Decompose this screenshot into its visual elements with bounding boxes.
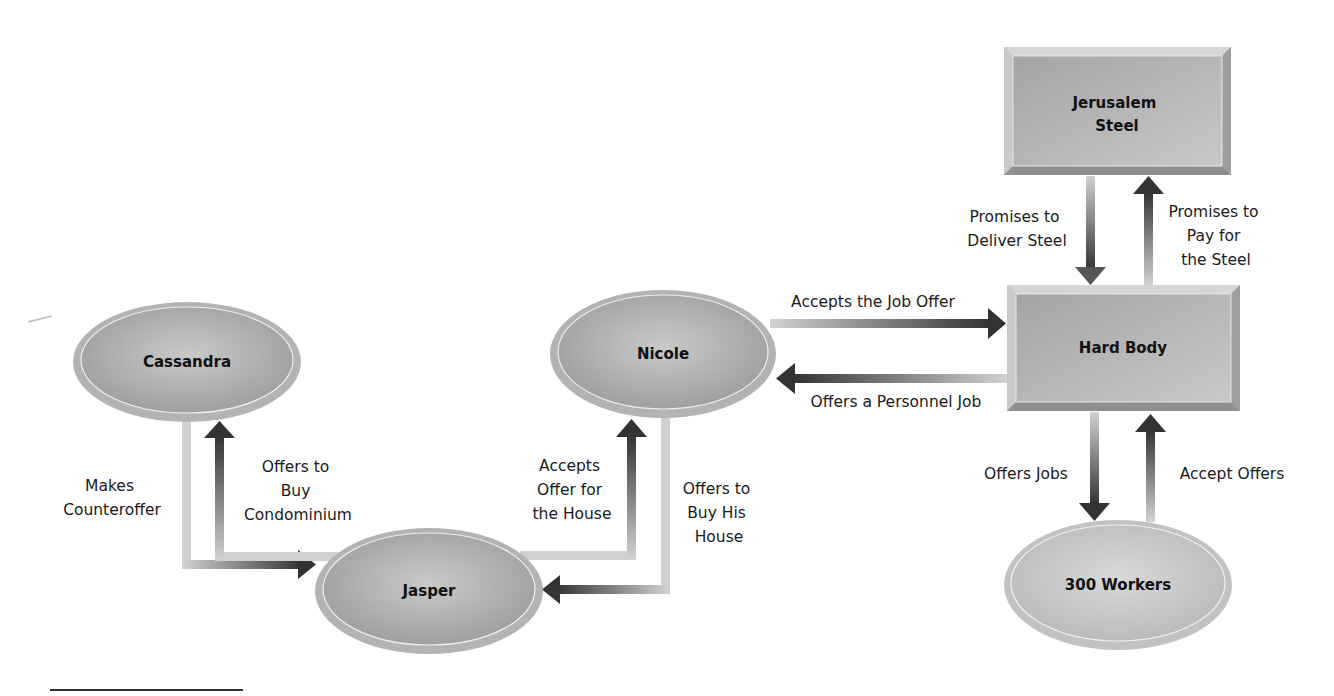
- edge-label-offers-jobs: Offers Jobs: [984, 465, 1068, 483]
- node-300-workers: 300 Workers: [1004, 520, 1232, 650]
- node-label-hard-body: Hard Body: [1079, 339, 1168, 357]
- edge-label-accept-offers: Accept Offers: [1180, 465, 1285, 483]
- contract-network-diagram: Cassandra Jasper Nicole Hard Body Jerusa…: [0, 0, 1334, 696]
- edge-offers-jobs: [1079, 412, 1110, 521]
- edge-promises-to-deliver-steel: [1075, 176, 1106, 285]
- edge-promises-to-pay-for-steel: [1133, 176, 1164, 285]
- edge-label-accepts-offer-for-house: Accepts Offer for the House: [533, 457, 612, 523]
- edge-accepts-the-job-offer: [770, 308, 1006, 339]
- edge-label-offers-a-personnel-job: Offers a Personnel Job: [811, 393, 982, 411]
- footnote-rule: [50, 689, 243, 691]
- edge-label-accepts-the-job-offer: Accepts the Job Offer: [791, 293, 955, 311]
- edge-label-offers-to-buy-condominium: Offers to Buy Condominium: [244, 458, 352, 524]
- node-jasper: Jasper: [315, 528, 543, 654]
- node-label-cassandra: Cassandra: [143, 353, 231, 371]
- node-cassandra: Cassandra: [73, 302, 301, 422]
- edge-offers-to-buy-condominium: [204, 421, 340, 561]
- node-nicole: Nicole: [550, 290, 776, 418]
- node-label-300-workers: 300 Workers: [1065, 576, 1171, 594]
- edge-label-promises-to-deliver-steel: Promises to Deliver Steel: [967, 208, 1066, 250]
- edge-label-promises-to-pay-for-steel: Promises to Pay for the Steel: [1168, 203, 1263, 269]
- node-hard-body: Hard Body: [1007, 285, 1240, 411]
- node-jerusalem-steel: Jerusalem Steel: [1004, 47, 1231, 175]
- node-label-jasper: Jasper: [402, 582, 457, 600]
- edge-accept-offers: [1135, 414, 1166, 522]
- edge-offers-a-personnel-job: [776, 363, 1008, 394]
- edge-label-makes-counteroffer: Makes Counteroffer: [63, 477, 161, 519]
- edge-label-offers-to-buy-his-house: Offers to Buy His House: [683, 480, 755, 546]
- node-label-nicole: Nicole: [637, 345, 689, 363]
